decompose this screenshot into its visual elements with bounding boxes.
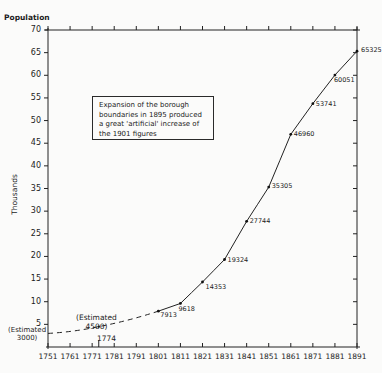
data-point-label: 19324 xyxy=(228,257,249,264)
y-tick-label: 55 xyxy=(11,94,41,102)
y-tick-label: 25 xyxy=(11,230,41,238)
y-axis-title-population: Population xyxy=(4,13,50,22)
axes xyxy=(44,26,360,349)
data-point-label: 7913 xyxy=(160,312,177,319)
estimated-3000-label: (Estimated 3000) xyxy=(8,327,46,342)
estimated-4500-label: (Estimated 4500) xyxy=(76,314,117,330)
data-point-label: 27744 xyxy=(250,218,271,225)
data-point xyxy=(201,281,204,284)
annotation-box: Expansion of the borough boundaries in 1… xyxy=(92,96,214,140)
data-point-label: 65325 xyxy=(361,47,382,54)
data-point xyxy=(179,302,182,305)
data-point xyxy=(311,102,314,105)
data-point-label: 14353 xyxy=(206,284,227,291)
data-points xyxy=(98,50,359,328)
y-tick-label: 40 xyxy=(11,162,41,170)
data-point-label: 60051 xyxy=(334,77,355,84)
data-point xyxy=(223,258,226,261)
data-point xyxy=(267,186,270,189)
data-point xyxy=(245,220,248,223)
y-tick-label: 45 xyxy=(11,139,41,147)
population-chart xyxy=(0,0,382,373)
population-line xyxy=(158,51,357,311)
y-tick-label: 65 xyxy=(11,49,41,57)
y-tick-label: 35 xyxy=(11,185,41,193)
estimated-4500-line2: 4500) xyxy=(76,323,117,331)
data-point-label: 46960 xyxy=(294,131,315,138)
data-point xyxy=(356,50,359,53)
estimated-3000-line2: 3000) xyxy=(8,335,46,342)
data-point xyxy=(289,133,292,136)
marker-1774-label: 1774 xyxy=(97,335,116,343)
estimated-3000-line1: (Estimated xyxy=(8,327,46,334)
y-tick-label: 70 xyxy=(11,26,41,34)
data-point-label: 35305 xyxy=(272,183,293,190)
y-tick-label: 15 xyxy=(11,275,41,283)
y-tick-label: 10 xyxy=(11,298,41,306)
y-tick-label: 60 xyxy=(11,71,41,79)
x-tick-label: 1891 xyxy=(342,353,372,361)
y-tick-label: 30 xyxy=(11,207,41,215)
data-point-label: 9618 xyxy=(178,306,195,313)
y-tick-label: 20 xyxy=(11,252,41,260)
data-point xyxy=(157,310,160,313)
y-tick-label: 50 xyxy=(11,117,41,125)
data-point-label: 53741 xyxy=(316,101,337,108)
series-lines xyxy=(48,51,357,333)
estimated-4500-line1: (Estimated xyxy=(76,314,117,322)
